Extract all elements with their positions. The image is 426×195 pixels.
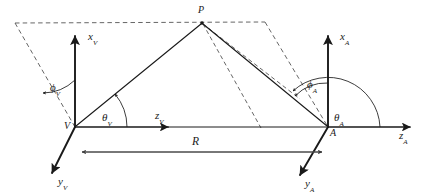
relative-geometry-diagram: P V A xV zV yV xA zA yA ϕV θV ϕA θA R [0, 0, 426, 195]
arc-theta-v [115, 94, 127, 127]
label-axis-x-a: xA [340, 31, 349, 45]
dashed-p-to-zv-axis [203, 24, 261, 128]
dashed-projection-lines [203, 24, 300, 128]
label-angle-phi-v: ϕV [50, 82, 60, 96]
diagram-canvas [0, 0, 426, 195]
label-axis-y-v: yV [58, 176, 67, 190]
ray-p-to-a [203, 24, 327, 126]
dashed-p-to-a-projection [203, 24, 300, 99]
a-frame-axes [300, 36, 410, 175]
dashed-left-edge [15, 23, 75, 127]
label-point-p: P [198, 5, 204, 15]
label-axis-x-v: xV [88, 31, 97, 45]
dashed-construction-plane [15, 22, 328, 127]
angle-arcs [43, 77, 380, 127]
label-angle-theta-a: θA [334, 112, 344, 126]
axis-y-v [52, 127, 75, 173]
label-range-r: R [192, 136, 199, 148]
line-of-sight-rays [76, 24, 327, 126]
label-angle-theta-v: θV [102, 112, 112, 126]
label-axis-z-v: zV [155, 110, 164, 124]
dashed-top-edge [15, 22, 265, 23]
axis-y-a [300, 127, 328, 175]
label-angle-phi-a: ϕA [307, 79, 317, 93]
point-p-marker [200, 21, 203, 24]
label-origin-v: V [64, 121, 70, 131]
label-origin-a: A [330, 128, 336, 138]
dashed-right-edge [265, 22, 328, 127]
label-axis-y-a: yA [305, 178, 314, 192]
label-axis-z-a: zA [399, 130, 408, 144]
